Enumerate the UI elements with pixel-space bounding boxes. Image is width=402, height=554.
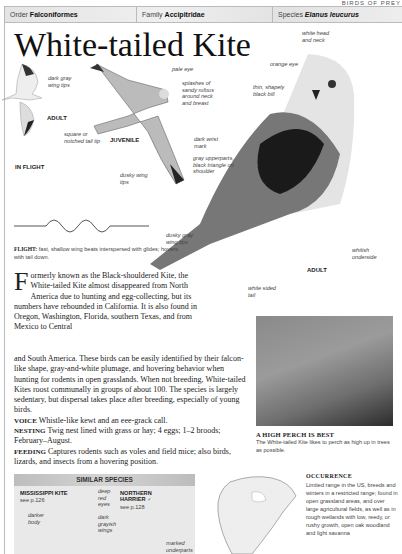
order-cell: Order Falconiformes (5, 7, 137, 22)
species-cell: Species Elanus leucurus (273, 7, 402, 22)
label-dark-wing-tips: dark gray wing tips (48, 75, 82, 88)
fact-voice: VOICE Whistle-like kewt and an eee-grack… (14, 416, 250, 426)
occurrence-text: Limited range in the US, breeds and wint… (306, 481, 398, 537)
label-white-head: white head and neck (302, 30, 336, 43)
family-cell: Family Accipitridae (137, 7, 273, 22)
mississippi-kite-ref: see p.126 (20, 497, 45, 504)
note-dark-grayish-wings: dark grayish wings (98, 514, 118, 534)
label-adult-large: ADULT (307, 267, 327, 273)
northern-harrier-ref: see p.128 (120, 504, 145, 511)
similar-species-heading: SIMILAR SPECIES (14, 474, 195, 486)
label-adult-small: ADULT (47, 115, 67, 121)
label-in-flight: IN FLIGHT (15, 164, 44, 170)
taxonomy-bar: Order Falconiformes Family Accipitridae … (4, 6, 402, 23)
intro-narrow: Formerly known as the Black-shouldered K… (14, 271, 199, 333)
label-white-sided-tail: white sided tail (248, 285, 282, 298)
label-juvenile: JUVENILE (110, 137, 139, 143)
range-map (212, 472, 300, 554)
note-darker-body: darker body (28, 512, 52, 525)
drop-cap: F (14, 272, 28, 292)
northern-harrier-name: NORTHERN HARRIER ♂ (120, 490, 160, 502)
photo-caption-title: A HIGH PERCH IS BEST (256, 431, 334, 438)
note-deep-red-eyes: deep red eyes (98, 488, 118, 508)
label-orange-eye: orange eye (270, 61, 298, 68)
adult-in-flight-illustration (2, 60, 52, 140)
photo-caption: The White-tailed Kite likes to perch as … (256, 439, 396, 454)
label-whitish-underside: whitish underside (352, 247, 388, 260)
label-gray-upperparts: gray upperparts, black triangle on shoul… (193, 155, 243, 175)
note-marked-underparts: marked underparts (166, 540, 194, 553)
fact-feeding: FEEDING Captures rodents such as voles a… (14, 447, 250, 468)
occurrence-title: OCCURRENCE (306, 473, 352, 479)
flight-pattern-icon (14, 212, 149, 238)
perch-photo (256, 316, 393, 426)
flight-description: FLIGHT: fast, shallow wing beats intersp… (14, 246, 189, 261)
label-square-tail: square or notched tail tip (64, 131, 104, 144)
intro-wide: and South America. These birds can be ea… (14, 354, 250, 467)
fact-nesting: NESTING Twig nest lined with grass or ha… (14, 426, 250, 447)
mississippi-kite-name: MISSISSIPPI KITE (20, 490, 68, 496)
label-bill: thin, shapely black bill (253, 84, 297, 97)
label-dusky-gray-tips: dusky gray wing tips (166, 232, 202, 245)
similar-species-panel: SIMILAR SPECIES MISSISSIPPI KITE see p.1… (14, 474, 195, 554)
